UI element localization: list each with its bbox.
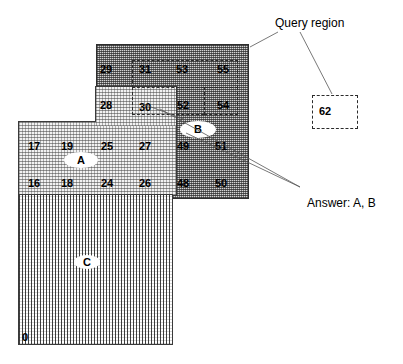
diagram-canvas: 29 31 53 55 28 30 52 54 17 19 25 27 49 5…: [0, 0, 403, 364]
answer-annotation: Answer: A, B: [307, 196, 376, 210]
leader-lines: [0, 0, 403, 364]
query-region-annotation: Query region: [275, 16, 344, 30]
